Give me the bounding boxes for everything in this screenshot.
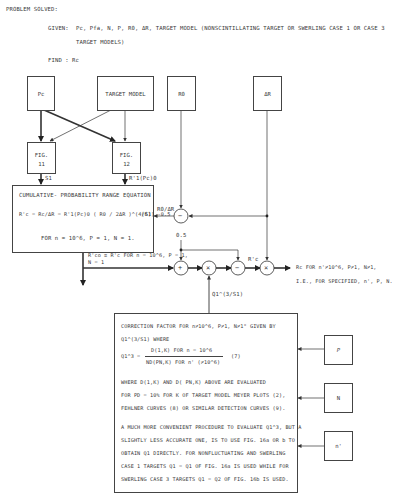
equation-condition: FOR n = 10^6, P = 1, N = 1.: [41, 236, 135, 242]
fraction-bar: [145, 356, 223, 357]
multiply-operator-icon: ×: [264, 265, 268, 272]
procedure-para-line-2: SLIGHTLY LESS ACCURATE ONE, IS TO USE FI…: [121, 438, 295, 443]
multiply-operator-icon: ×: [206, 265, 210, 272]
fig-11-number: 11: [28, 160, 55, 168]
fig-11-box: FIG. 11: [27, 142, 56, 174]
correction-line-2: Q1^(3/S1) WHERE: [121, 337, 169, 342]
subtract-operator-icon: −: [235, 265, 239, 272]
procedure-para-line-4: CASE 1 TARGETS Q1 = Q1 OF FIG. 16a IS US…: [121, 464, 289, 469]
fig-12-label: FIG.: [113, 151, 140, 159]
equation-title: CUMULATIVE- PROBABILITY RANGE EQUATION: [19, 193, 151, 199]
input-box-n-prime: n': [324, 431, 353, 461]
rc-prime-label: R'c: [248, 257, 258, 263]
input-box-n: N: [324, 383, 353, 413]
input-box-pc: Pc: [27, 76, 55, 111]
n-label: N: [325, 394, 352, 402]
fig-11-label: FIG.: [28, 151, 55, 159]
equation-number: (6): [141, 212, 151, 218]
correction-line-1: CORRECTION FACTOR FOR n≠10^6, P≠1, N≠1" …: [121, 324, 276, 329]
correction-factor-box: CORRECTION FACTOR FOR n≠10^6, P≠1, N≠1" …: [114, 313, 298, 493]
r0-over-delta-r-label: R0/ΔR: [157, 207, 174, 213]
input-box-r0: R0: [167, 76, 196, 111]
q-factor-label: Q1^(3/S1): [212, 292, 243, 298]
input-box-p: P: [324, 335, 353, 365]
q-equation-number: (7): [231, 354, 241, 359]
where-para-line-1: WHERE D(1,K) AND D( PN,K) ABOVE ARE EVAL…: [121, 380, 266, 385]
procedure-para-line-5: SWERLING CASE 3 TARGETS Q1 = Q2 OF FIG. …: [121, 477, 289, 482]
r0-label: R0: [168, 90, 195, 98]
junction-node: [180, 249, 183, 252]
rco-label: R'co ≡ R'c FOR n = 10^6, P = 1,: [88, 253, 188, 258]
delta-r-label: ΔR: [254, 90, 281, 98]
output-rc-label: Rc FOR n'≠10^6, P≠1, N≠1,: [296, 265, 377, 270]
procedure-para-line-1: A MUCH MORE CONVENIENT PROCEDURE TO EVAL…: [121, 425, 302, 430]
procedure-para-line-3: OBTAIN Q1 DIRECTLY. FOR NONFLUCTUATING A…: [121, 451, 285, 456]
fig-12-box: FIG. 12: [112, 142, 141, 174]
q-equation-numerator: D(1,K) FOR n = 10^6: [151, 348, 212, 353]
q-equation-denominator: ND(PN,K) FOR n' (≠10^6): [146, 360, 220, 365]
input-box-delta-r: ΔR: [253, 76, 282, 111]
subtract-operator-icon: −: [178, 213, 182, 220]
where-para-line-3: FEHLNER CURVES (8) OR SIMILAR DETECTION …: [121, 406, 285, 411]
rco-label-cont: N = 1: [88, 260, 104, 265]
half-constant-label: 0.5: [176, 233, 186, 239]
q-equation-lhs: Q1^3 =: [121, 354, 140, 359]
fig-12-number: 12: [113, 160, 140, 168]
p-label: P: [325, 346, 352, 354]
target-model-label: TARGET MODEL: [98, 90, 153, 98]
input-box-target-model: TARGET MODEL: [97, 76, 154, 111]
n-prime-label: n': [325, 442, 352, 450]
where-para-line-2: FOR PD = 10% FOR K OF TARGET MODEL MEYER…: [121, 393, 285, 398]
junction-node: [266, 215, 269, 218]
pc-label: Pc: [28, 90, 54, 98]
s1-label: S1: [45, 176, 52, 182]
output-rc-label-cont: I.E., FOR SPECIFIED, n', P, N.: [296, 279, 393, 284]
r1-pc-label: R'1(Pc)0: [129, 176, 157, 182]
range-equation-box: CUMULATIVE- PROBABILITY RANGE EQUATION R…: [12, 185, 154, 253]
add-operator-icon: +: [178, 265, 182, 272]
